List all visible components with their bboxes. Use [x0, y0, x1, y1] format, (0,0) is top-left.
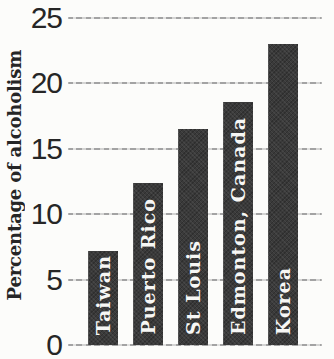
bar-label-korea: Korea — [272, 267, 294, 335]
bar-korea: Korea — [268, 44, 298, 345]
bar-label-st-louis: St Louis — [182, 240, 204, 335]
alcoholism-bar-chart: Percentage of alcoholism 0510152025Taiwa… — [0, 0, 334, 359]
gridline-25 — [68, 17, 322, 19]
bar-puerto-rico: Puerto Rico — [133, 183, 163, 345]
y-tick-label-0: 0 — [0, 329, 62, 359]
y-tick-label-15: 15 — [0, 133, 62, 165]
bar-taiwan: Taiwan — [88, 251, 118, 345]
y-tick-label-20: 20 — [0, 67, 62, 99]
plot-area: 0510152025TaiwanPuerto RicoSt LouisEdmon… — [0, 0, 334, 359]
bar-label-edmonton-canada: Edmonton, Canada — [227, 117, 249, 335]
bar-st-louis: St Louis — [178, 129, 208, 345]
bar-label-puerto-rico: Puerto Rico — [137, 198, 159, 335]
bar-edmonton-canada: Edmonton, Canada — [223, 102, 253, 345]
y-tick-label-25: 25 — [0, 2, 62, 34]
y-tick-label-5: 5 — [0, 264, 62, 296]
y-tick-label-10: 10 — [0, 198, 62, 230]
bar-label-taiwan: Taiwan — [92, 255, 114, 335]
